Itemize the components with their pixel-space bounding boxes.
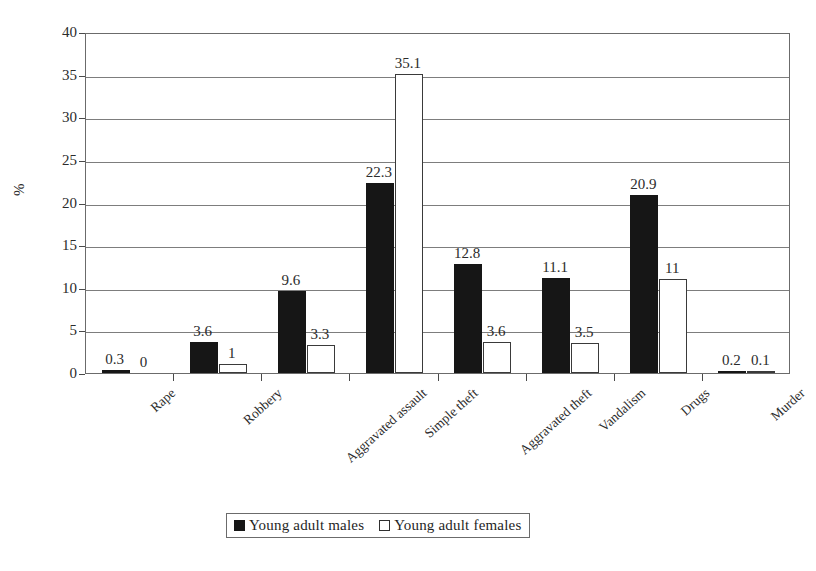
x-axis-tick-mark [526, 374, 527, 381]
y-axis-tick-label: 20 [37, 196, 77, 211]
gridline [86, 205, 789, 206]
bar-data-label: 35.1 [386, 56, 430, 71]
bar-data-label: 3.5 [562, 325, 606, 340]
legend-label: Young adult males [249, 517, 364, 533]
plot-area [85, 33, 790, 374]
bar-female [219, 364, 247, 373]
y-axis-tick-mark [79, 161, 85, 162]
bar-female [659, 279, 687, 373]
gridline [86, 119, 789, 120]
gridline [86, 247, 789, 248]
bar-male [630, 195, 658, 373]
x-axis-category-label: Rape [148, 386, 178, 415]
x-axis-tick-mark [261, 374, 262, 381]
bar-data-label: 22.3 [357, 165, 401, 180]
x-axis-tick-mark [614, 374, 615, 381]
y-axis-tick-mark [79, 289, 85, 290]
bar-female [483, 342, 511, 373]
y-axis-tick-label: 5 [37, 323, 77, 338]
x-axis-category-label: Robbery [241, 386, 285, 428]
y-axis-tick-label: 15 [37, 238, 77, 253]
x-axis-category-label: Simple theft [422, 386, 481, 441]
bar-data-label: 0.1 [738, 353, 782, 368]
bar-female [747, 371, 775, 374]
gridline [86, 162, 789, 163]
y-axis-tick-mark [79, 374, 85, 375]
bar-data-label: 1 [210, 346, 254, 361]
y-axis-tick-mark [79, 246, 85, 247]
x-axis-tick-mark [702, 374, 703, 381]
y-axis-tick-mark [79, 331, 85, 332]
bar-data-label: 11.1 [533, 260, 577, 275]
bar-data-label: 3.3 [298, 327, 342, 342]
y-axis-tick-label: 40 [37, 25, 77, 40]
y-axis-tick-mark [79, 76, 85, 77]
bar-female [571, 343, 599, 373]
y-axis-tick-mark [79, 204, 85, 205]
bar-chart: % 0510152025303540 RapeRobberyAggravated… [0, 0, 816, 571]
bar-male [366, 183, 394, 373]
x-axis-tick-mark [173, 374, 174, 381]
y-axis-tick-label: 25 [37, 153, 77, 168]
y-axis-title: % [12, 184, 27, 197]
bar-female [307, 345, 335, 373]
x-axis-category-label: Vandalism [596, 386, 648, 435]
bar-female [395, 74, 423, 373]
legend-label: Young adult females [394, 517, 521, 533]
bar-data-label: 3.6 [181, 324, 225, 339]
x-axis-category-label: Aggravated theft [517, 386, 594, 457]
y-axis-tick-label: 0 [37, 366, 77, 381]
x-axis-tick-mark [438, 374, 439, 381]
bar-male [102, 370, 130, 373]
y-axis-ticks: 0510152025303540 [33, 33, 77, 374]
x-axis-category-label: Murder [768, 386, 807, 424]
y-axis-tick-mark [79, 118, 85, 119]
bar-data-label: 9.6 [269, 273, 313, 288]
bar-data-label: 11 [650, 261, 694, 276]
y-axis-tick-label: 35 [37, 68, 77, 83]
gridline [86, 77, 789, 78]
bar-data-label: 12.8 [445, 246, 489, 261]
bar-male [454, 264, 482, 373]
bar-male [718, 371, 746, 374]
chart-legend: Young adult malesYoung adult females [226, 513, 530, 538]
x-axis-tick-mark [349, 374, 350, 381]
bar-data-label: 0 [122, 355, 166, 370]
legend-item[interactable]: Young adult males [234, 517, 364, 533]
y-axis-tick-label: 30 [37, 110, 77, 125]
x-axis-category-label: Aggravated assault [344, 386, 430, 465]
legend-item[interactable]: Young adult females [379, 517, 521, 533]
bar-data-label: 20.9 [621, 177, 665, 192]
y-axis-tick-label: 10 [37, 281, 77, 296]
legend-swatch-male [234, 520, 245, 531]
x-axis-category-label: Drugs [678, 386, 712, 418]
y-axis-tick-mark [79, 33, 85, 34]
legend-swatch-female [379, 520, 390, 531]
bar-data-label: 3.6 [474, 324, 518, 339]
